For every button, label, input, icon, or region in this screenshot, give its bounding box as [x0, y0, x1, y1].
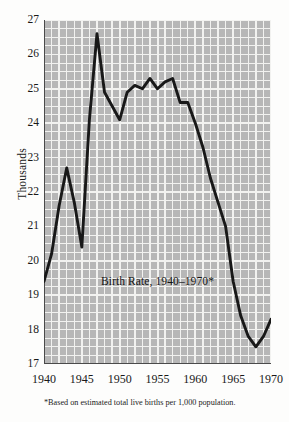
birth-rate-line-plot	[44, 20, 271, 364]
y-tick-label: 17	[1, 358, 39, 370]
y-tick-label: 25	[1, 83, 39, 95]
chart-title: Birth Rate, 1940–1970*	[44, 275, 271, 287]
y-tick-label: 19	[1, 289, 39, 301]
x-tick-label: 1950	[97, 373, 143, 385]
birth-rate-chart-figure: Thousands 1718192021222324252627 1940194…	[0, 0, 289, 422]
y-tick-label: 20	[1, 255, 39, 267]
x-tick-label: 1955	[135, 373, 181, 385]
chart-footnote: *Based on estimated total live births pe…	[44, 398, 284, 407]
x-tick-label: 1965	[210, 373, 256, 385]
y-tick-label: 26	[1, 48, 39, 60]
plot-area	[44, 20, 271, 364]
y-axis-title: Thousands	[16, 114, 28, 234]
x-tick-label: 1940	[21, 373, 67, 385]
x-tick-label: 1970	[248, 373, 289, 385]
x-tick-label: 1945	[59, 373, 105, 385]
y-tick-label: 27	[1, 14, 39, 26]
y-tick-label: 18	[1, 324, 39, 336]
x-tick-label: 1960	[172, 373, 218, 385]
